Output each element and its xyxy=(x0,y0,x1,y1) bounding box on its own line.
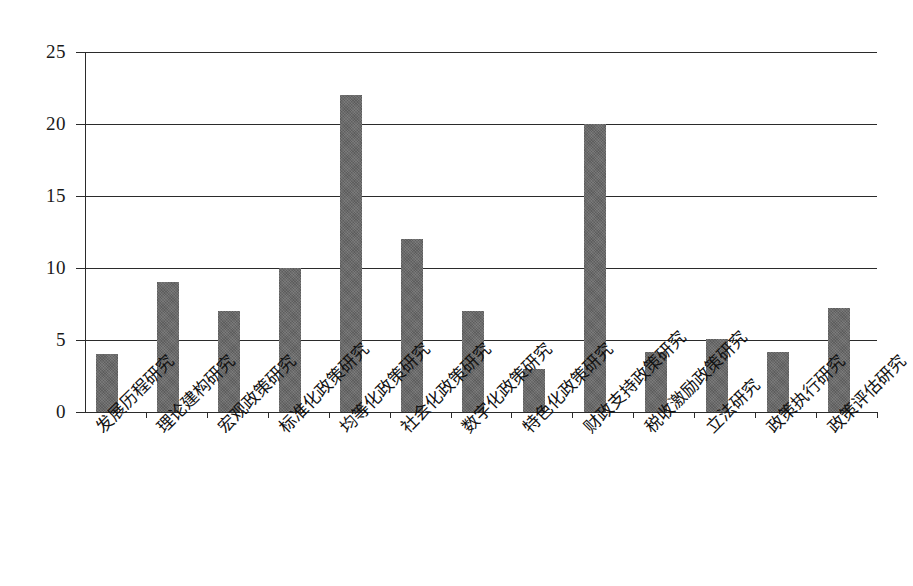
y-tick-mark xyxy=(76,268,85,269)
y-tick-mark xyxy=(76,340,85,341)
gridline xyxy=(85,268,877,269)
x-tick-mark xyxy=(633,412,634,418)
y-tick-mark xyxy=(76,412,85,413)
x-tick-mark xyxy=(572,412,573,418)
y-tick-mark xyxy=(76,196,85,197)
bar xyxy=(279,268,301,412)
x-tick-mark xyxy=(694,412,695,418)
x-tick-mark xyxy=(268,412,269,418)
gridline xyxy=(85,124,877,125)
y-tick-label: 25 xyxy=(10,42,66,61)
y-tick-mark xyxy=(76,52,85,53)
gridline xyxy=(85,196,877,197)
y-tick-label: 5 xyxy=(10,330,66,349)
x-tick-mark xyxy=(511,412,512,418)
bar xyxy=(401,239,423,412)
y-tick-label: 0 xyxy=(10,402,66,421)
gridline xyxy=(85,52,877,53)
x-tick-mark xyxy=(329,412,330,418)
x-tick-mark xyxy=(877,412,878,418)
y-tick-label: 15 xyxy=(10,186,66,205)
bar xyxy=(157,282,179,412)
x-tick-mark xyxy=(816,412,817,418)
bar-chart-figure: 0510152025 发展历程研究理论建构研究宏观政策研究标准化政策研究均等化政… xyxy=(0,0,913,586)
x-tick-mark xyxy=(451,412,452,418)
y-tick-label: 20 xyxy=(10,114,66,133)
y-tick-mark xyxy=(76,124,85,125)
x-tick-mark xyxy=(207,412,208,418)
y-tick-label: 10 xyxy=(10,258,66,277)
x-tick-mark xyxy=(146,412,147,418)
x-tick-mark xyxy=(755,412,756,418)
x-tick-mark xyxy=(390,412,391,418)
